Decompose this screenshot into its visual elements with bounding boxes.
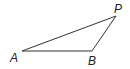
vertex-label-p: P	[114, 2, 122, 16]
triangle-diagram: A B P	[0, 0, 130, 69]
triangle-abp	[22, 16, 116, 51]
vertex-label-b: B	[88, 54, 96, 68]
vertex-label-a: A	[9, 51, 18, 65]
